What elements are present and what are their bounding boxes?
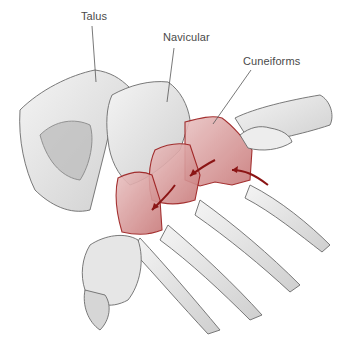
label-cuneiforms: Cuneiforms bbox=[243, 55, 300, 67]
label-navicular: Navicular bbox=[163, 31, 210, 43]
foot-anatomy-illustration: Talus Navicular Cuneiforms bbox=[0, 0, 344, 363]
label-talus: Talus bbox=[81, 10, 107, 22]
